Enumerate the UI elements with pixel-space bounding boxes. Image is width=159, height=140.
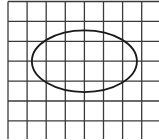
grid [8,2,159,140]
grid-ellipse-figure [0,0,159,139]
